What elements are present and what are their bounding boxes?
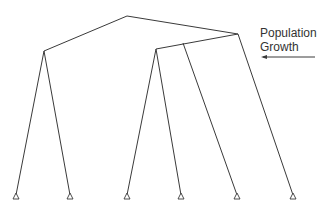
annotation-line2: Growth <box>260 40 299 54</box>
leaf-triangle-icon <box>234 193 240 199</box>
edge-right-sub <box>156 34 238 49</box>
leaf-triangle-icon <box>178 193 184 199</box>
edge-root-right <box>127 16 238 34</box>
edge-root-left <box>44 16 127 51</box>
arrowhead-icon <box>261 55 267 59</box>
leaf-triangle-icon <box>67 193 73 199</box>
annotation-line1: Population <box>260 26 317 40</box>
leaf-triangle-icon <box>124 193 130 199</box>
edge-sub-leaf3 <box>127 49 156 195</box>
edge-left-leaf1 <box>16 51 44 195</box>
leaf-triangle-icon <box>13 193 19 199</box>
edge-branch-leaf5 <box>183 43 237 195</box>
edge-left-leaf2 <box>44 51 70 195</box>
edge-sub-leaf4 <box>156 49 181 195</box>
leaf-triangle-icon <box>290 193 296 199</box>
